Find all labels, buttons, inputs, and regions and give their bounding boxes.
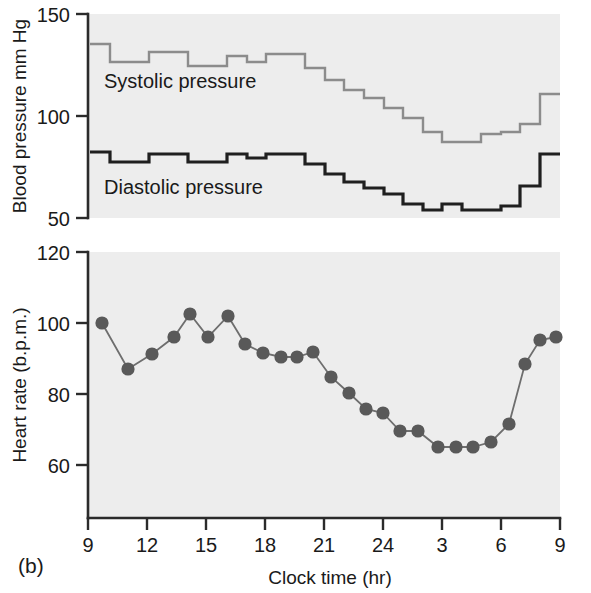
x-axis-title: Clock time (hr) xyxy=(268,567,392,588)
x-ticklabel-9a: 9 xyxy=(82,534,93,556)
hr-point xyxy=(201,330,214,343)
hr-ticklabel-120: 120 xyxy=(37,242,70,264)
x-ticklabel-9b: 9 xyxy=(554,534,565,556)
x-ticklabel-15: 15 xyxy=(195,534,217,556)
hr-point xyxy=(121,362,134,375)
x-ticklabel-12: 12 xyxy=(136,534,158,556)
hr-ticklabel-100: 100 xyxy=(37,313,70,335)
hr-point xyxy=(167,330,180,343)
bp-ticklabel-150: 150 xyxy=(37,4,70,26)
hr-point xyxy=(484,435,497,448)
systolic-series-label: Systolic pressure xyxy=(104,70,256,92)
circadian-bp-hr-figure: 150 100 50 Blood pressure mm Hg Systolic… xyxy=(0,0,591,593)
hr-point xyxy=(411,424,424,437)
hr-ticklabel-80: 80 xyxy=(48,384,70,406)
x-ticklabel-18: 18 xyxy=(254,534,276,556)
hr-point xyxy=(256,346,269,359)
x-ticklabel-6: 6 xyxy=(495,534,506,556)
bp-axis-title: Blood pressure mm Hg xyxy=(9,19,30,213)
hr-point xyxy=(95,316,108,329)
hr-point xyxy=(449,440,462,453)
hr-point xyxy=(518,357,531,370)
bp-ticklabel-50: 50 xyxy=(48,208,70,230)
panel-label: (b) xyxy=(18,554,44,577)
hr-point xyxy=(431,440,444,453)
x-ticklabel-3: 3 xyxy=(436,534,447,556)
hr-plot-background xyxy=(88,252,560,518)
x-ticklabel-21: 21 xyxy=(313,534,335,556)
hr-ticklabel-60: 60 xyxy=(48,455,70,477)
hr-point xyxy=(274,350,287,363)
hr-point xyxy=(549,330,562,343)
x-ticklabel-24: 24 xyxy=(372,534,394,556)
hr-point xyxy=(533,333,546,346)
hr-point xyxy=(221,309,234,322)
hr-point xyxy=(359,402,372,415)
bp-ticklabel-100: 100 xyxy=(37,106,70,128)
hr-point xyxy=(306,345,319,358)
hr-axis-title: Heart rate (b.p.m.) xyxy=(9,307,30,462)
hr-point xyxy=(342,386,355,399)
hr-point xyxy=(145,347,158,360)
hr-point xyxy=(393,424,406,437)
hr-point xyxy=(324,370,337,383)
hr-point xyxy=(183,307,196,320)
hr-point xyxy=(466,440,479,453)
hr-point xyxy=(238,337,251,350)
hr-point xyxy=(290,350,303,363)
hr-point xyxy=(376,406,389,419)
diastolic-series-label: Diastolic pressure xyxy=(104,176,263,198)
hr-point xyxy=(502,417,515,430)
figure-container: 150 100 50 Blood pressure mm Hg Systolic… xyxy=(0,0,591,593)
